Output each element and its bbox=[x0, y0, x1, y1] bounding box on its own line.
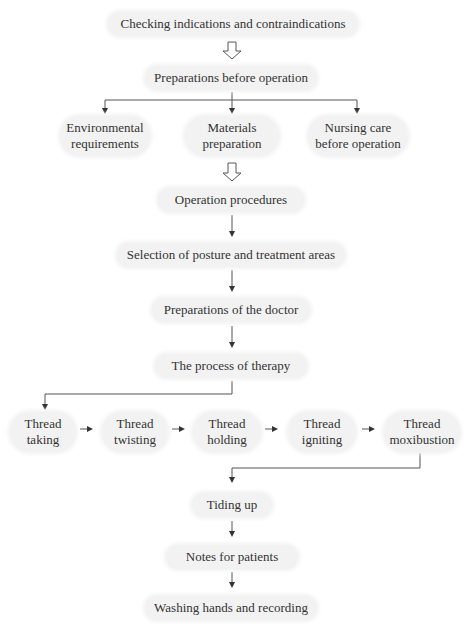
branch-label: preparation bbox=[202, 136, 261, 152]
thread-label: moxibustion bbox=[389, 432, 454, 448]
thread-igniting: Threadigniting bbox=[288, 412, 356, 452]
step-operation-procedures: Operation procedures bbox=[158, 188, 304, 212]
thread-label: Thread bbox=[25, 416, 62, 432]
thread-label: twisting bbox=[114, 432, 156, 448]
thread-label: taking bbox=[25, 432, 62, 448]
thread-taking: Threadtaking bbox=[10, 412, 76, 452]
branch-label: Environmental bbox=[66, 120, 143, 136]
step-label: Tiding up bbox=[207, 497, 257, 513]
step-label: Preparations before operation bbox=[154, 70, 308, 86]
step-label: Preparations of the doctor bbox=[164, 302, 299, 318]
thread-label: Thread bbox=[207, 416, 247, 432]
step-notes-patients: Notes for patients bbox=[166, 545, 298, 569]
thread-label: Thread bbox=[302, 416, 342, 432]
branch-label: before operation bbox=[315, 136, 401, 152]
step-label: Selection of posture and treatment areas bbox=[127, 247, 335, 263]
hollow-arrow-icon bbox=[223, 163, 241, 181]
branch-nursing-care: Nursing carebefore operation bbox=[308, 116, 408, 156]
branch-label: requirements bbox=[66, 136, 143, 152]
branch-label: Materials bbox=[202, 120, 261, 136]
step-preparations-doctor: Preparations of the doctor bbox=[152, 298, 310, 322]
step-label: The process of therapy bbox=[172, 358, 291, 374]
step-washing-hands: Washing hands and recording bbox=[145, 596, 317, 620]
hollow-arrow-icon bbox=[223, 42, 241, 59]
branch-materials-preparation: Materialspreparation bbox=[185, 116, 279, 156]
step-process-therapy: The process of therapy bbox=[155, 354, 307, 378]
step-label: Notes for patients bbox=[186, 549, 278, 565]
step-checking-indications: Checking indications and contraindicatio… bbox=[108, 12, 358, 36]
branch-environmental-requirements: Environmentalrequirements bbox=[60, 116, 150, 156]
step-tiding-up: Tiding up bbox=[192, 493, 272, 517]
step-preparations-before-operation: Preparations before operation bbox=[145, 66, 317, 90]
thread-holding: Threadholding bbox=[193, 412, 261, 452]
branch-label: Nursing care bbox=[315, 120, 401, 136]
thread-twisting: Threadtwisting bbox=[102, 412, 168, 452]
step-label: Washing hands and recording bbox=[154, 600, 308, 616]
step-label: Operation procedures bbox=[175, 192, 287, 208]
step-selection-posture: Selection of posture and treatment areas bbox=[117, 243, 345, 267]
thread-label: holding bbox=[207, 432, 247, 448]
thread-label: Thread bbox=[114, 416, 156, 432]
thread-moxibustion: Threadmoxibustion bbox=[384, 412, 460, 452]
thread-label: igniting bbox=[302, 432, 342, 448]
step-label: Checking indications and contraindicatio… bbox=[121, 16, 346, 32]
thread-label: Thread bbox=[389, 416, 454, 432]
